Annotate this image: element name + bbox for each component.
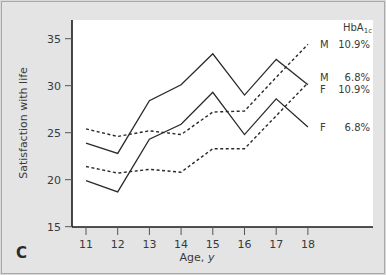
x-axis-title-text: Age, bbox=[180, 251, 208, 264]
x-tick-label: 13 bbox=[142, 238, 156, 251]
x-tick-label: 11 bbox=[79, 238, 93, 251]
legend-sex-label: M bbox=[320, 72, 329, 83]
x-tick-label: 14 bbox=[174, 238, 188, 251]
y-tick-label: 25 bbox=[47, 127, 61, 140]
legend-hba1c-value: 10.9% bbox=[338, 84, 370, 95]
y-axis-title: Satisfaction with life bbox=[17, 67, 30, 179]
y-tick-label: 15 bbox=[47, 221, 61, 234]
x-ticks: 1112131415161718 bbox=[79, 227, 315, 251]
legend-sex-label: M bbox=[320, 39, 329, 50]
x-tick-label: 15 bbox=[206, 238, 220, 251]
x-axis-title: Age, y bbox=[180, 251, 215, 264]
x-tick-label: 17 bbox=[269, 238, 283, 251]
legend-hba1c-value: 6.8% bbox=[345, 72, 370, 83]
plot-area bbox=[72, 20, 373, 227]
line-chart: 1520253035 1112131415161718 HbA1c M10.9%… bbox=[0, 0, 386, 275]
y-ticks: 1520253035 bbox=[47, 33, 72, 234]
x-axis-unit: y bbox=[207, 251, 215, 264]
y-tick-label: 20 bbox=[47, 174, 61, 187]
x-tick-label: 12 bbox=[111, 238, 125, 251]
panel-label: C bbox=[16, 244, 27, 262]
y-tick-label: 35 bbox=[47, 33, 61, 46]
legend-sex-label: F bbox=[320, 84, 326, 95]
y-tick-label: 30 bbox=[47, 80, 61, 93]
x-tick-label: 16 bbox=[238, 238, 252, 251]
legend-hba1c-value: 6.8% bbox=[345, 122, 370, 133]
legend-sex-label: F bbox=[320, 122, 326, 133]
x-tick-label: 18 bbox=[301, 238, 315, 251]
legend-hba1c-value: 10.9% bbox=[338, 39, 370, 50]
